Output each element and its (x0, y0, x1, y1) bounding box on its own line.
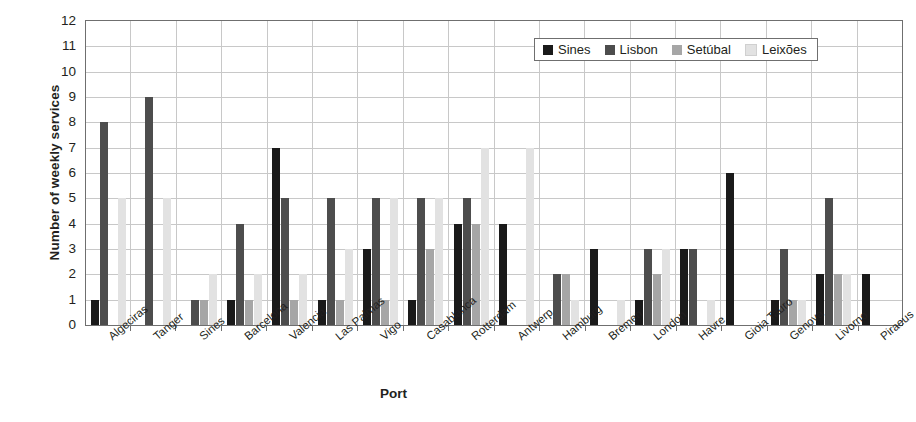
bar-slot (163, 21, 171, 325)
bar-slot (281, 21, 289, 325)
bar[interactable] (662, 249, 670, 325)
bar-slot (318, 21, 326, 325)
bar[interactable] (272, 148, 280, 325)
bar[interactable] (390, 198, 398, 325)
bar[interactable] (726, 173, 734, 325)
bar-slot (680, 21, 688, 325)
x-axis-title: Port (380, 386, 407, 401)
bar-slot (735, 21, 743, 325)
bar-group (539, 21, 584, 325)
bar[interactable] (426, 249, 434, 325)
bar-slot (435, 21, 443, 325)
bar-group (585, 21, 630, 325)
x-label-cell: Sines (176, 331, 221, 411)
bar-slot (553, 21, 561, 325)
bar-slot (753, 21, 761, 325)
bar-group (222, 21, 267, 325)
bar[interactable] (227, 300, 235, 325)
bar[interactable] (653, 274, 661, 325)
y-tick-label: 0 (36, 319, 76, 331)
x-axis-category-labels: AlgecirasTangerSinesBarcelonaValenciaLas… (85, 331, 903, 411)
legend-swatch-icon (543, 45, 553, 55)
bar-slot (245, 21, 253, 325)
bar[interactable] (644, 249, 652, 325)
bar[interactable] (191, 300, 199, 325)
bar-slot (508, 21, 516, 325)
y-tick-label: 4 (36, 218, 76, 230)
bar[interactable] (327, 198, 335, 325)
y-axis-tick-labels: 1211109876543210 (36, 14, 76, 326)
x-label-cell: London (630, 331, 675, 411)
y-tick-label: 3 (36, 243, 76, 255)
bar[interactable] (100, 122, 108, 325)
bar[interactable] (200, 300, 208, 325)
bar-group (494, 21, 539, 325)
bar-slot (272, 21, 280, 325)
bar-slot (771, 21, 779, 325)
bar[interactable] (163, 198, 171, 325)
bar-slot (843, 21, 851, 325)
bar-slot (653, 21, 661, 325)
bar-slot (689, 21, 697, 325)
bar-group (721, 21, 766, 325)
bar-slot (372, 21, 380, 325)
bar-slot (290, 21, 298, 325)
bar[interactable] (834, 274, 842, 325)
bar-slot (345, 21, 353, 325)
bar[interactable] (336, 300, 344, 325)
bar-slot (390, 21, 398, 325)
bar-slot (726, 21, 734, 325)
bar-slot (463, 21, 471, 325)
legend-label: Sines (558, 42, 591, 57)
bar[interactable] (245, 300, 253, 325)
bar-slot (254, 21, 262, 325)
bar[interactable] (408, 300, 416, 325)
bar[interactable] (825, 198, 833, 325)
bar-slot (635, 21, 643, 325)
bar[interactable] (118, 198, 126, 325)
legend-item[interactable]: Sines (543, 42, 591, 57)
legend-item[interactable]: Leixões (745, 42, 807, 57)
bar-slot (136, 21, 144, 325)
legend: SinesLisbonSetúbalLeixões (534, 38, 818, 61)
bar[interactable] (236, 224, 244, 325)
bar-slot (544, 21, 552, 325)
bar[interactable] (481, 148, 489, 325)
bar-slot (617, 21, 625, 325)
legend-item[interactable]: Lisbon (605, 42, 658, 57)
bar-group (403, 21, 448, 325)
bar[interactable] (526, 148, 534, 325)
bar-slot (100, 21, 108, 325)
bar-slot (109, 21, 117, 325)
legend-swatch-icon (605, 45, 615, 55)
bar-slot (299, 21, 307, 325)
y-tick-label: 1 (36, 294, 76, 306)
bar-slot (209, 21, 217, 325)
bar-slot (599, 21, 607, 325)
legend-swatch-icon (745, 44, 757, 56)
bar-slot (336, 21, 344, 325)
bar[interactable] (417, 198, 425, 325)
bar-slot (880, 21, 888, 325)
y-tick-label: 9 (36, 91, 76, 103)
bar[interactable] (689, 249, 697, 325)
bar-slot (862, 21, 870, 325)
bar[interactable] (345, 249, 353, 325)
x-label-cell: Piraeus (857, 331, 902, 411)
bar-slot (562, 21, 570, 325)
y-tick-label: 5 (36, 192, 76, 204)
bar[interactable] (435, 198, 443, 325)
bar-slot (834, 21, 842, 325)
x-label-cell: Barcelona (221, 331, 266, 411)
bar-slot (789, 21, 797, 325)
bar[interactable] (91, 300, 99, 325)
bar-slot (118, 21, 126, 325)
bar[interactable] (290, 300, 298, 325)
legend-item[interactable]: Setúbal (672, 42, 731, 57)
bar[interactable] (562, 274, 570, 325)
bar[interactable] (145, 97, 153, 325)
bar[interactable] (553, 274, 561, 325)
bar[interactable] (472, 224, 480, 325)
y-tick-label: 12 (36, 15, 76, 27)
